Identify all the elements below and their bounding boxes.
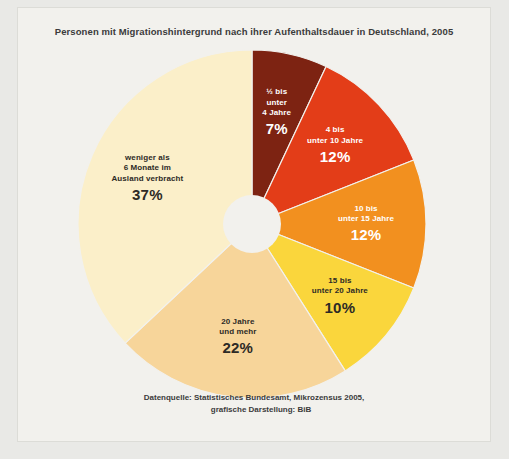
- pie-slice-label-line: und mehr: [219, 327, 256, 337]
- pie-slice-label: 4 bisunter 10 Jahre12%: [307, 125, 363, 166]
- source-line-2: grafische Darstellung: BiB: [18, 404, 490, 416]
- screenshot-root: Personen mit Migrationshintergrund nach …: [0, 0, 509, 459]
- pie-slice-label-line: 4 bis: [307, 125, 363, 135]
- pie-slice-label: ½ bisunter4 Jahre7%: [262, 87, 291, 138]
- pie-slice-label-line: unter 20 Jahre: [312, 286, 368, 296]
- chart-panel: Personen mit Migrationshintergrund nach …: [18, 8, 490, 441]
- pie-slice-label-line: unter 15 Jahre: [338, 214, 394, 224]
- pie-slice-value: 10%: [312, 298, 368, 317]
- pie-slice-label-line: weniger als: [111, 153, 183, 163]
- pie-slice-label-line: 6 Monate im: [111, 163, 183, 173]
- pie-slice-value: 7%: [262, 119, 291, 138]
- pie-slice-label-line: 15 bis: [312, 276, 368, 286]
- pie-slice-label: 10 bisunter 15 Jahre12%: [338, 204, 394, 245]
- pie-slice-value: 22%: [219, 338, 256, 357]
- pie-slice-value: 37%: [111, 185, 183, 204]
- pie-slice-value: 12%: [307, 147, 363, 166]
- pie-slice-value: 12%: [338, 225, 394, 244]
- source-line-1: Datenquelle: Statistisches Bundesamt, Mi…: [18, 392, 490, 404]
- pie-slice-label-line: Ausland verbracht: [111, 174, 183, 184]
- pie-slice-label: 15 bisunter 20 Jahre10%: [312, 276, 368, 317]
- pie-slice-label: 20 Jahreund mehr22%: [219, 317, 256, 358]
- source-note: Datenquelle: Statistisches Bundesamt, Mi…: [18, 392, 490, 415]
- pie-slice-label: weniger als6 Monate imAusland verbracht3…: [111, 153, 183, 204]
- pie-slice-label-line: unter: [262, 98, 291, 108]
- donut-hole: [223, 195, 281, 253]
- pie-slice-label-line: unter 10 Jahre: [307, 136, 363, 146]
- pie-slice-label-line: 4 Jahre: [262, 108, 291, 118]
- pie-slice-label-line: 10 bis: [338, 204, 394, 214]
- pie-slice-label-line: 20 Jahre: [219, 317, 256, 327]
- pie-chart: ½ bisunter4 Jahre7%4 bisunter 10 Jahre12…: [18, 8, 490, 441]
- pie-slice-label-line: ½ bis: [262, 87, 291, 97]
